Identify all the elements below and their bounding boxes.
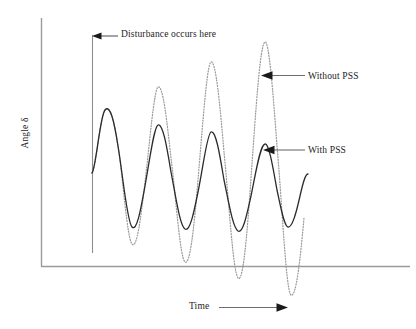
x-axis-label: Time — [189, 301, 209, 311]
y-axis-label: Angle δ — [20, 103, 30, 163]
figure-canvas: Disturbance occurs here Without PSS With… — [0, 0, 416, 329]
without-pss-arrowhead-icon — [261, 71, 273, 79]
without-pss-annotation-label: Without PSS — [308, 71, 359, 81]
disturbance-arrowhead-icon — [92, 33, 102, 40]
plot-svg — [0, 0, 416, 329]
growing-oscillation-curve — [92, 42, 304, 295]
disturbance-annotation-label: Disturbance occurs here — [121, 29, 216, 39]
with-pss-arrowhead-icon — [263, 146, 275, 154]
with-pss-annotation-label: With PSS — [308, 145, 346, 155]
time-arrowhead-icon — [277, 303, 289, 311]
